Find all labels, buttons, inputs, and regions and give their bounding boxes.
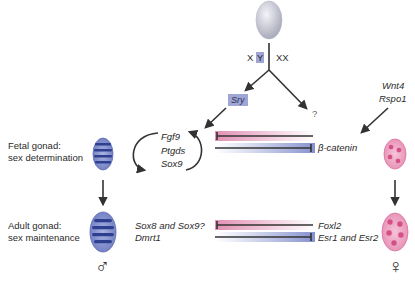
female-unknown-factor: ?	[312, 108, 317, 120]
y-chromosome: Y	[256, 52, 264, 63]
gene-ptgds: Ptgds	[161, 144, 185, 158]
male-chromosome-label: X Y	[247, 52, 264, 64]
adult-testis-icon	[90, 212, 116, 252]
gene-sox8-sox9: Sox8 and Sox9?	[135, 220, 205, 232]
fetal-row-label: Fetal gonad: sex determination	[8, 140, 83, 164]
fetal-testis-icon	[93, 138, 113, 170]
egg-cell-icon	[256, 1, 282, 39]
female-symbol-icon: ♀	[388, 256, 403, 276]
adult-male-genes: Sox8 and Sox9? Dmrt1	[135, 220, 205, 244]
adult-ovary-icon	[382, 213, 408, 251]
gene-sox9: Sox9	[161, 157, 185, 171]
gene-fgf9: Fgf9	[161, 130, 185, 144]
fetal-male-genes: Fgf9 Ptgds Sox9	[161, 130, 185, 171]
fetal-antagonism-bars	[215, 131, 315, 153]
wnt4-arrow	[362, 108, 388, 132]
male-symbol-icon: ♂	[95, 256, 110, 276]
gene-foxl2: Foxl2	[318, 220, 378, 232]
gene-dmrt1: Dmrt1	[135, 232, 205, 244]
rspo1-label: Rspo1	[379, 93, 406, 105]
wnt4-label: Wnt4	[382, 80, 404, 92]
adult-row-label: Adult gonad: sex maintenance	[8, 220, 80, 244]
female-chromosome-label: XX	[276, 52, 289, 64]
fetal-ovary-icon	[384, 139, 406, 169]
adult-female-genes: Foxl2 Esr1 and Esr2	[318, 220, 378, 244]
development-arrows	[103, 180, 395, 204]
gene-esr1-esr2: Esr1 and Esr2	[318, 232, 378, 244]
sry-gene-box: Sry	[228, 94, 248, 106]
adult-antagonism-bars	[215, 220, 315, 242]
x-chromosome: X	[247, 52, 253, 63]
beta-catenin-label: β-catenin	[318, 142, 357, 154]
